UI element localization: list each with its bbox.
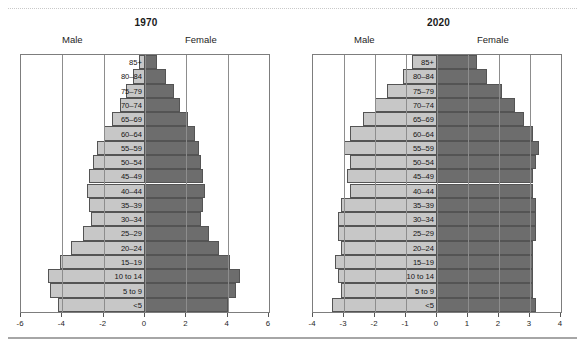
bar-female [437,155,536,169]
bar-male [133,69,145,83]
legend-female-2020: Female [477,34,509,45]
axis-tick-label: -4 [309,319,316,328]
bar-female [145,55,157,69]
axis-tick-label: -2 [371,319,378,328]
bar-male [341,283,437,297]
bar-male [363,112,437,126]
bar-male [403,69,437,83]
axis-tick-label: 2 [183,319,187,328]
bar-male [120,98,145,112]
legend-female-1970: Female [185,34,217,45]
bar-female [145,198,203,212]
bar-female [145,283,236,297]
gridline [228,55,229,312]
bar-female [437,198,536,212]
bar-male [350,184,437,198]
axis-tick [560,313,561,317]
bar-female [145,212,201,226]
bar-female [437,98,515,112]
bar-male [341,198,437,212]
gridline [344,55,345,312]
bar-male [112,112,145,126]
axis-tick-label: -4 [58,319,65,328]
plot-area-2020: 85+80–8475–7970–7465–6960–6455–5950–5445… [312,54,562,313]
axis-tick [227,313,228,317]
gridline [145,55,146,312]
legend-male-1970: Male [62,34,83,45]
gridline [104,55,105,312]
bar-male [126,84,145,98]
plot-area-1970: 85+80–8475–7970–7465–6960–6455–5950–5445… [20,54,270,313]
axis-tick-label: 4 [558,319,562,328]
x-axis-1970: -6-4-20246 [20,313,270,339]
axis-tick-label: -2 [99,319,106,328]
bar-female [437,283,533,297]
bar-male [335,255,437,269]
bar-female [437,55,477,69]
axis-tick [312,313,313,317]
axis-tick [529,313,530,317]
bar-male [89,198,145,212]
gridline [375,55,376,312]
bar-female [145,112,188,126]
axis-tick-label: -1 [402,319,409,328]
bar-male [71,241,145,255]
gridline [437,55,438,312]
bar-female [437,241,533,255]
bar-male [338,212,437,226]
axis-tick [20,313,21,317]
bar-female [437,269,533,283]
bar-female [437,69,487,83]
x-axis-2020: -4-3-2-101234 [312,313,562,339]
axis-tick [61,313,62,317]
axis-tick [185,313,186,317]
gridline [62,55,63,312]
bar-female [437,112,524,126]
gridline [499,55,500,312]
bar-male [412,55,437,69]
bar-female [145,269,240,283]
bar-male [350,155,437,169]
axis-tick [343,313,344,317]
axis-tick [405,313,406,317]
gridline [530,55,531,312]
bar-male [387,84,437,98]
axis-tick [103,313,104,317]
axis-tick-label: 2 [496,319,500,328]
axis-tick [374,313,375,317]
bar-male [60,255,145,269]
axis-tick-label: 1 [465,319,469,328]
bar-male [91,212,145,226]
bar-female [437,298,536,312]
bar-male [104,126,145,140]
panel-1970: 1970 Male Female 85+80–8475–7970–7465–69… [0,0,292,345]
bar-female [437,226,536,240]
axis-tick [268,313,269,317]
bar-female [437,126,533,140]
bar-male [347,169,437,183]
bar-male [338,269,437,283]
bar-male [341,241,437,255]
bar-male [344,141,437,155]
axis-tick-label: 4 [224,319,228,328]
bar-female [437,141,539,155]
bar-female [437,84,502,98]
bar-male [332,298,437,312]
axis-tick-label: 3 [527,319,531,328]
bar-male [50,283,145,297]
panel-title-2020: 2020 [292,17,585,28]
bar-male [87,184,145,198]
axis-tick-label: 0 [434,319,438,328]
bar-female [145,98,180,112]
axis-tick-label: 6 [266,319,270,328]
axis-tick-label: -6 [17,319,24,328]
bar-female [145,169,203,183]
bar-female [145,141,199,155]
panel-2020: 2020 Male Female 85+80–8475–7970–7465–69… [292,0,585,345]
bar-male [89,169,145,183]
bar-female [145,84,174,98]
bar-female [145,241,219,255]
bar-female [437,184,533,198]
bar-male [58,298,145,312]
axis-tick [467,313,468,317]
